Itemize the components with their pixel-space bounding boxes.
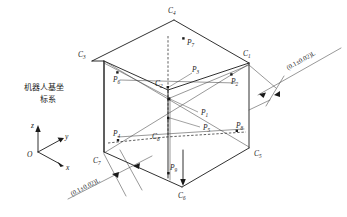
- dim-right-tick: [266, 76, 284, 106]
- figure-canvas: (0.1±0.02)L (0.1±0.02)L z y x O: [0, 0, 347, 217]
- marker-p4: [117, 139, 119, 141]
- vertex-label-c2: C2: [155, 79, 163, 89]
- x-axis-shaft: [38, 152, 60, 164]
- marker-p9: [167, 172, 169, 174]
- vertex-label-c1: C1: [243, 49, 251, 59]
- point-label-p7: P7: [186, 38, 195, 48]
- y-axis-label: y: [64, 132, 69, 141]
- diagram-svg: (0.1±0.02)L (0.1±0.02)L z y x O: [0, 0, 347, 217]
- point-labels: P1 P2 P3 P4 P5 P6 P7 P8 P9: [112, 38, 244, 173]
- marker-p2: [230, 73, 232, 75]
- frame-caption-line1: 机器人基坐: [24, 82, 64, 92]
- marker-p1: [167, 98, 170, 101]
- x-axis-arrowhead: [58, 162, 65, 167]
- point-markers: [116, 37, 238, 174]
- point-label-p6: P6: [112, 75, 121, 85]
- cube-outline: [92, 20, 249, 187]
- dim-right-leader: [258, 48, 341, 95]
- leader-p5: [170, 118, 200, 127]
- dimension-label-left: (0.1±0.02)L: [69, 176, 101, 198]
- cube-hidden-edges: [108, 36, 246, 143]
- dimension-left: (0.1±0.02)L: [68, 150, 152, 199]
- edge-c4-c1: [174, 20, 249, 63]
- vertex-label-c5: C5: [254, 149, 262, 159]
- edge-c5-c6: [182, 148, 249, 187]
- vertex-label-c3: C3: [78, 50, 86, 60]
- vertex-label-c4: C4: [168, 6, 176, 16]
- frame-caption-line2: 标系: [40, 94, 56, 104]
- point-label-p4: P4: [112, 129, 121, 139]
- p9-arrow: [180, 150, 186, 186]
- dim-right-arrowhead2: [274, 91, 280, 97]
- z-axis-label: z: [30, 121, 34, 130]
- marker-p3: [167, 86, 169, 88]
- marker-p6: [116, 71, 118, 73]
- x-axis-label: x: [65, 163, 70, 172]
- point-label-p9: P9: [169, 163, 178, 173]
- point-label-p8: P8: [235, 121, 244, 131]
- diagonal-c7-c1: [104, 64, 249, 153]
- dim-left-ext-b: [120, 150, 142, 190]
- dim-left-arrowhead: [112, 172, 119, 178]
- vertex-label-c6: C6: [178, 191, 186, 201]
- y-axis-arrowhead: [58, 138, 65, 143]
- point-label-p5: P5: [202, 123, 211, 133]
- edge-c3-c4: [92, 20, 174, 61]
- point-label-p3: P3: [191, 65, 200, 75]
- point-label-p1: P1: [200, 108, 209, 118]
- dimension-label-right: (0.1±0.02)L: [285, 49, 317, 71]
- point-label-p2: P2: [230, 77, 239, 87]
- dim-right-arrowhead: [259, 93, 266, 99]
- vertex-label-c8: C8: [152, 132, 160, 142]
- dim-right-ext-top: [249, 65, 276, 88]
- marker-p7: [182, 37, 184, 39]
- marker-p5: [167, 117, 169, 119]
- z-axis-arrowhead: [35, 125, 40, 132]
- y-axis-shaft: [38, 140, 60, 152]
- leader-p3: [169, 73, 192, 87]
- vertex-label-c7: C7: [93, 156, 101, 166]
- dimension-right: (0.1±0.02)L: [249, 48, 341, 110]
- robot-base-frame: [35, 125, 64, 167]
- hidden-edge-c8-c5: [166, 132, 246, 137]
- origin-label: O: [27, 150, 33, 159]
- edge-c7-c3: [92, 61, 104, 152]
